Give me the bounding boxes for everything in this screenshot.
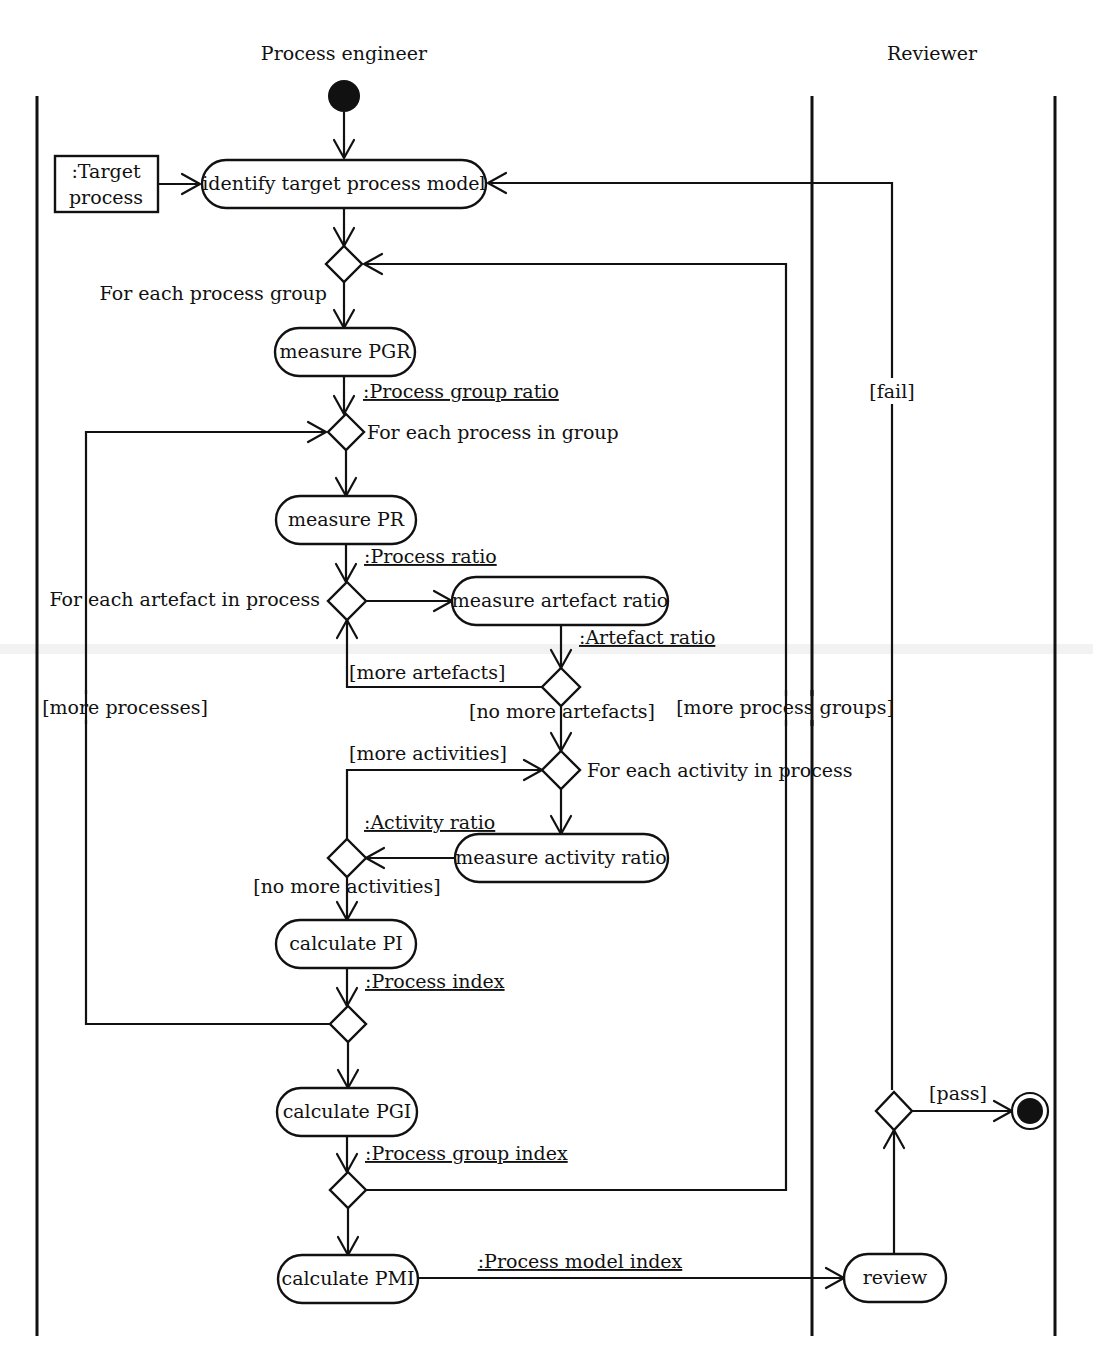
guard-fail: [fail] (869, 380, 914, 402)
object-target-process-label-2: process (69, 186, 143, 208)
flow-more-process-groups (364, 264, 786, 1190)
decision-more-processes (330, 1006, 366, 1042)
action-calculate-pmi-label: calculate PMI (282, 1267, 415, 1289)
action-measure-pr-label: measure PR (288, 508, 405, 530)
loop-label-each-process-group: For each process group (100, 282, 327, 304)
decision-more-process-groups (330, 1172, 366, 1208)
scan-artifact-band (0, 644, 1093, 654)
action-measure-pgr-label: measure PGR (279, 340, 411, 362)
decision-each-process (328, 414, 364, 450)
object-flow-activity-ratio: :Activity ratio (364, 811, 495, 833)
swimlane-header-reviewer: Reviewer (887, 42, 978, 64)
action-identify-label: identify target process model (202, 172, 485, 194)
initial-node (328, 80, 360, 112)
swimlane-header-process-engineer: Process engineer (261, 42, 428, 64)
object-flow-process-model-index: :Process model index (478, 1250, 683, 1272)
guard-more-processes: [more processes] (42, 696, 208, 718)
guard-more-artefacts: [more artefacts] (349, 661, 505, 683)
object-flow-process-group-ratio: :Process group ratio (363, 380, 559, 402)
object-flow-process-ratio: :Process ratio (364, 545, 497, 567)
object-flow-artefact-ratio: :Artefact ratio (579, 626, 715, 648)
decision-review-result (876, 1092, 912, 1130)
action-calculate-pgi-label: calculate PGI (283, 1100, 412, 1122)
decision-each-process-group (326, 246, 362, 282)
activity-diagram: Process engineer Reviewer :Target proces… (0, 0, 1093, 1365)
action-review-label: review (863, 1266, 928, 1288)
guard-more-activities: [more activities] (349, 742, 507, 764)
action-measure-artefact-label: measure artefact ratio (452, 589, 668, 611)
decision-each-artefact (328, 582, 366, 620)
guard-no-more-artefacts: [no more artefacts] (469, 700, 655, 722)
action-calculate-pi-label: calculate PI (289, 932, 403, 954)
loop-label-each-activity: For each activity in process (587, 759, 853, 781)
loop-label-each-artefact: For each artefact in process (49, 588, 320, 610)
decision-more-activities (328, 839, 366, 877)
object-flow-process-index: :Process index (365, 970, 505, 992)
object-flow-process-group-index: :Process group index (365, 1142, 568, 1164)
final-node-core (1017, 1098, 1043, 1124)
loop-label-each-process: For each process in group (367, 421, 619, 443)
guard-no-more-activities: [no more activities] (253, 875, 441, 897)
decision-each-activity (542, 751, 580, 789)
guard-pass: [pass] (929, 1082, 987, 1104)
guard-more-process-groups: [more process groups] (676, 696, 894, 718)
object-target-process-label: :Target (71, 160, 140, 182)
action-measure-activity-label: measure activity ratio (455, 846, 666, 868)
